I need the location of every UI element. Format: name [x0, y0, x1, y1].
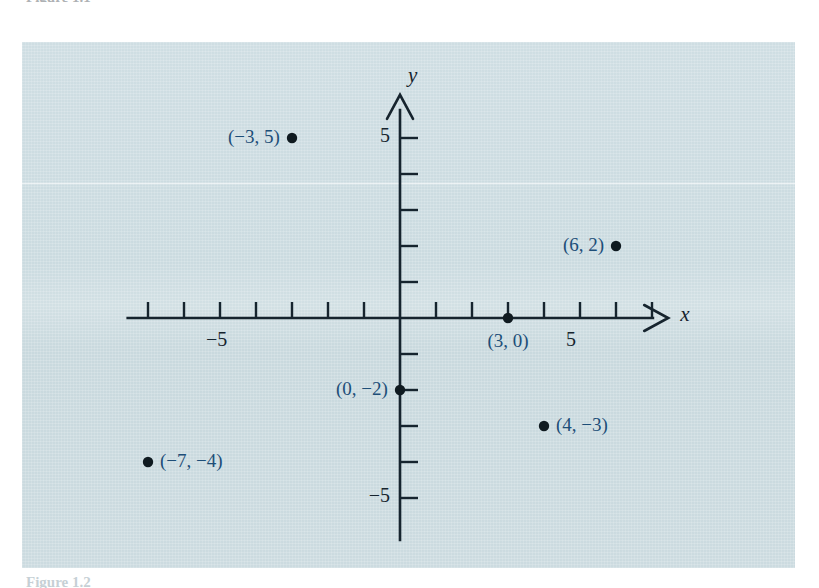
plotted-points-group — [143, 133, 621, 467]
point-coordinate-label: (4, −3) — [556, 414, 608, 436]
x-tick-label: −5 — [206, 328, 227, 351]
data-point — [539, 421, 549, 431]
point-coordinate-label: (−7, −4) — [160, 450, 223, 472]
caption-top-bleed: Figure 1.1 — [26, 0, 91, 2]
caption-bottom-bleed: Figure 1.2 — [26, 574, 91, 588]
point-coordinate-label: (3, 0) — [488, 330, 529, 352]
y-tick-label: −5 — [369, 484, 390, 507]
data-point — [287, 133, 297, 143]
x-tick-label: 5 — [566, 328, 576, 351]
data-point — [503, 313, 513, 323]
point-coordinate-label: (0, −2) — [336, 378, 388, 400]
y-tick-label: 5 — [380, 124, 390, 147]
data-point — [143, 457, 153, 467]
point-coordinate-label: (−3, 5) — [228, 126, 280, 148]
data-point — [395, 385, 405, 395]
y-axis-label: y — [408, 63, 417, 88]
axes-group — [126, 95, 668, 541]
data-point — [611, 241, 621, 251]
point-coordinate-label: (6, 2) — [563, 234, 604, 256]
figure-panel: y x −555−5(−3, 5)(6, 2)(3, 0)(0, −2)(4, … — [22, 42, 795, 568]
x-axis-label: x — [680, 302, 689, 327]
